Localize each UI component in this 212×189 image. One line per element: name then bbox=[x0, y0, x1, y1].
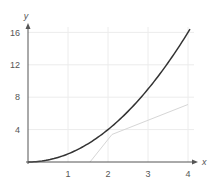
y-tick-label: 16 bbox=[10, 28, 20, 38]
x-tick-label: 3 bbox=[145, 169, 150, 179]
x-tick-labels: 1 2 3 4 bbox=[65, 169, 190, 179]
curve-series bbox=[28, 29, 190, 162]
chart: x y 1 2 3 4 4 8 12 16 bbox=[0, 0, 212, 189]
x-tick-label: 4 bbox=[185, 169, 190, 179]
plot-series bbox=[28, 29, 190, 162]
x-tick-label: 1 bbox=[65, 169, 70, 179]
light-line-series bbox=[90, 104, 188, 162]
y-tick-label: 12 bbox=[10, 60, 20, 70]
y-tick-label: 8 bbox=[15, 92, 20, 102]
x-tick-label: 2 bbox=[105, 169, 110, 179]
x-axis-arrow-icon bbox=[192, 160, 198, 165]
y-tick-labels: 4 8 12 16 bbox=[10, 28, 20, 135]
y-tick-label: 4 bbox=[15, 125, 20, 135]
axes: x y bbox=[23, 11, 207, 167]
y-axis-label: y bbox=[23, 11, 29, 21]
y-axis-arrow-icon bbox=[26, 23, 31, 29]
gridlines bbox=[28, 27, 194, 162]
x-axis-label: x bbox=[201, 157, 207, 167]
